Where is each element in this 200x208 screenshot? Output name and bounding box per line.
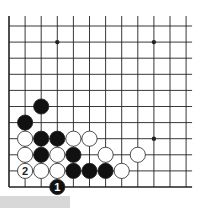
white-stone	[50, 147, 65, 162]
black-stone	[18, 115, 33, 130]
white-stone	[82, 131, 97, 146]
white-stone	[18, 131, 33, 146]
black-stone	[34, 147, 49, 162]
star-point	[152, 40, 156, 44]
black-stone	[98, 163, 113, 178]
black-stone	[34, 131, 49, 146]
black-stone	[66, 147, 81, 162]
white-stone	[50, 163, 65, 178]
star-point	[152, 137, 156, 141]
stone-move-number: 1	[54, 181, 60, 193]
stone-move-number: 2	[22, 165, 28, 177]
white-stone	[66, 131, 81, 146]
white-stone	[18, 147, 33, 162]
white-stone	[98, 147, 113, 162]
black-stone	[82, 163, 97, 178]
black-stone	[50, 131, 65, 146]
star-point	[55, 40, 59, 44]
white-stone	[34, 163, 49, 178]
caption-bar	[0, 196, 70, 208]
white-stone	[130, 147, 145, 162]
white-stone	[114, 163, 129, 178]
go-board: 21	[0, 0, 200, 208]
black-stone	[34, 99, 49, 114]
black-stone	[66, 163, 81, 178]
